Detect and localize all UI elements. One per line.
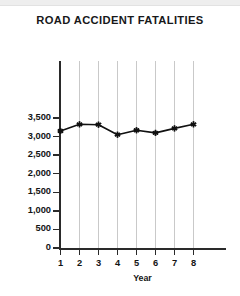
plot-area: 05001,0001,5002,0002,5003,0003,500 12345… <box>0 0 240 296</box>
chart-page: ROAD ACCIDENT FATALITIES 05001,0001,5002… <box>0 0 240 296</box>
x-axis-title: Year <box>59 273 226 283</box>
series-markers-group <box>58 121 196 137</box>
data-series-layer <box>0 0 240 296</box>
